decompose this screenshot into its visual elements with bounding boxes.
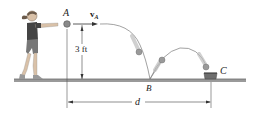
label-point-b: B bbox=[146, 83, 152, 93]
label-height: 3 ft bbox=[75, 44, 88, 54]
cup-c-icon bbox=[204, 73, 217, 79]
label-distance: d bbox=[135, 96, 141, 107]
ball-at-a-icon bbox=[64, 21, 71, 28]
velocity-arrow-icon bbox=[73, 22, 98, 26]
trajectory-first-arc bbox=[100, 24, 150, 79]
label-point-a: A bbox=[62, 7, 70, 18]
label-point-c: C bbox=[220, 65, 227, 76]
ball-ascending-icon bbox=[155, 57, 165, 70]
ball-landing-icon bbox=[199, 54, 209, 70]
girl-figure-icon bbox=[19, 11, 58, 79]
label-velocity: vA bbox=[90, 9, 99, 20]
ground-line bbox=[14, 79, 246, 82]
projectile-diagram: A vA 3 ft B C d bbox=[0, 0, 260, 117]
